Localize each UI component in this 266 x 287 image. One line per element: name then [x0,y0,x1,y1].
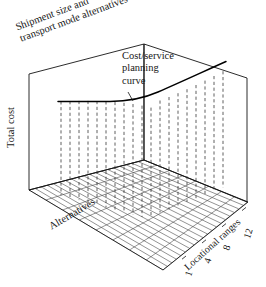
drop-lines [61,71,223,217]
vertical-axis-label: Total cost [5,107,17,148]
cost-service-planning-figure: Shipment size and transport mode alterna… [0,0,266,287]
curve-callout-label: Cost/service planning curve [122,50,174,87]
